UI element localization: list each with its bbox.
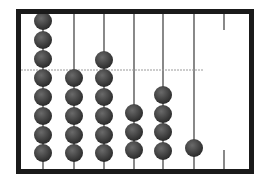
bead-rod1-4 (34, 69, 52, 87)
bead-rod1-1 (34, 12, 52, 30)
bead-rod4-3 (125, 141, 143, 159)
bead-rod3-6 (95, 144, 113, 162)
bead-rod2-2 (65, 88, 83, 106)
bead-rod3-2 (95, 69, 113, 87)
bead-rod1-8 (34, 144, 52, 162)
bead-rod1-6 (34, 107, 52, 125)
bead-rod1-2 (34, 31, 52, 49)
bead-rod5-1 (154, 86, 172, 104)
bead-rod2-4 (65, 126, 83, 144)
bead-rod3-5 (95, 126, 113, 144)
bead-rod3-1 (95, 51, 113, 69)
bead-rod4-1 (125, 104, 143, 122)
bead-rod2-1 (65, 69, 83, 87)
bead-rod2-3 (65, 107, 83, 125)
bead-rod5-4 (154, 142, 172, 160)
bead-rod3-3 (95, 88, 113, 106)
bead-rod1-7 (34, 126, 52, 144)
abacus-diagram (0, 0, 264, 186)
bead-rod1-3 (34, 50, 52, 68)
bead-rod5-3 (154, 123, 172, 141)
bead-rod4-2 (125, 123, 143, 141)
bead-rod2-5 (65, 144, 83, 162)
abacus-beads (34, 12, 203, 162)
bead-rod3-4 (95, 107, 113, 125)
bead-rod6-1 (185, 139, 203, 157)
bead-rod1-5 (34, 88, 52, 106)
bead-rod5-2 (154, 105, 172, 123)
